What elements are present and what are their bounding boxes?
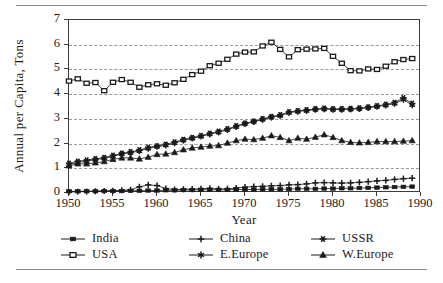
series-svg: [69, 20, 421, 193]
y-axis-title-text: Annual per Capita, Tons: [11, 39, 27, 173]
x-tick-label-1960: 1960: [134, 197, 178, 210]
legend-label: USSR: [342, 232, 374, 245]
series-w-europe: [66, 131, 415, 168]
series-china: [66, 175, 415, 195]
series-india: [67, 185, 415, 193]
legend-item-e-europe[interactable]: E.Europe: [188, 248, 268, 261]
legend-marker-open-square-icon: [60, 249, 86, 261]
x-tick-label-1985: 1985: [354, 197, 398, 210]
legend-item-w-europe[interactable]: W.Europe: [310, 248, 393, 261]
legend-item-india[interactable]: India: [60, 232, 119, 245]
chart-figure: Annual per Capita, Tons 01234567 1950195…: [0, 0, 443, 283]
x-tick-label-1970: 1970: [222, 197, 266, 210]
series-line: [69, 135, 412, 166]
series-line: [69, 42, 412, 90]
y-tick-label-5: 5: [34, 61, 60, 73]
series-usa: [66, 40, 414, 92]
legend-item-china[interactable]: China: [188, 232, 251, 245]
y-axis-title: Annual per Capita, Tons: [6, 19, 32, 192]
legend-label: India: [92, 232, 119, 245]
legend-label: W.Europe: [342, 248, 393, 261]
series-ussr: [66, 95, 416, 166]
y-tick-label-6: 6: [34, 37, 60, 49]
chart-legend: IndiaChinaUSSRUSAE.EuropeW.Europe: [60, 232, 410, 264]
plot-area: [68, 19, 420, 192]
figure-bottom-rule: [16, 269, 427, 270]
x-tick-label-1965: 1965: [178, 197, 222, 210]
y-tick-label-2: 2: [34, 136, 60, 148]
legend-label: USA: [92, 248, 118, 261]
legend-marker-plus-icon: [188, 233, 214, 245]
x-tick-label-1980: 1980: [310, 197, 354, 210]
data-layer: [69, 20, 419, 191]
legend-label: China: [220, 232, 251, 245]
x-tick-label-1990: 1990: [398, 197, 442, 210]
legend-marker-triangle-icon: [310, 249, 336, 261]
x-axis-title: Year: [68, 212, 420, 228]
legend-marker-asterisk-icon: [310, 233, 336, 245]
legend-marker-filled-square-icon: [60, 233, 86, 245]
x-tick-label-1955: 1955: [90, 197, 134, 210]
x-tick-label-1950: 1950: [46, 197, 90, 210]
series-e-europe: [66, 96, 415, 168]
y-tick-label-4: 4: [34, 86, 60, 98]
y-tick-label-1: 1: [34, 160, 60, 172]
y-tick-label-3: 3: [34, 111, 60, 123]
legend-item-ussr[interactable]: USSR: [310, 232, 374, 245]
legend-item-usa[interactable]: USA: [60, 248, 118, 261]
figure-top-rule: [16, 5, 427, 6]
legend-label: E.Europe: [220, 248, 268, 261]
y-tick-label-7: 7: [34, 12, 60, 24]
legend-marker-star-x-icon: [188, 249, 214, 261]
x-tick-label-1975: 1975: [266, 197, 310, 210]
